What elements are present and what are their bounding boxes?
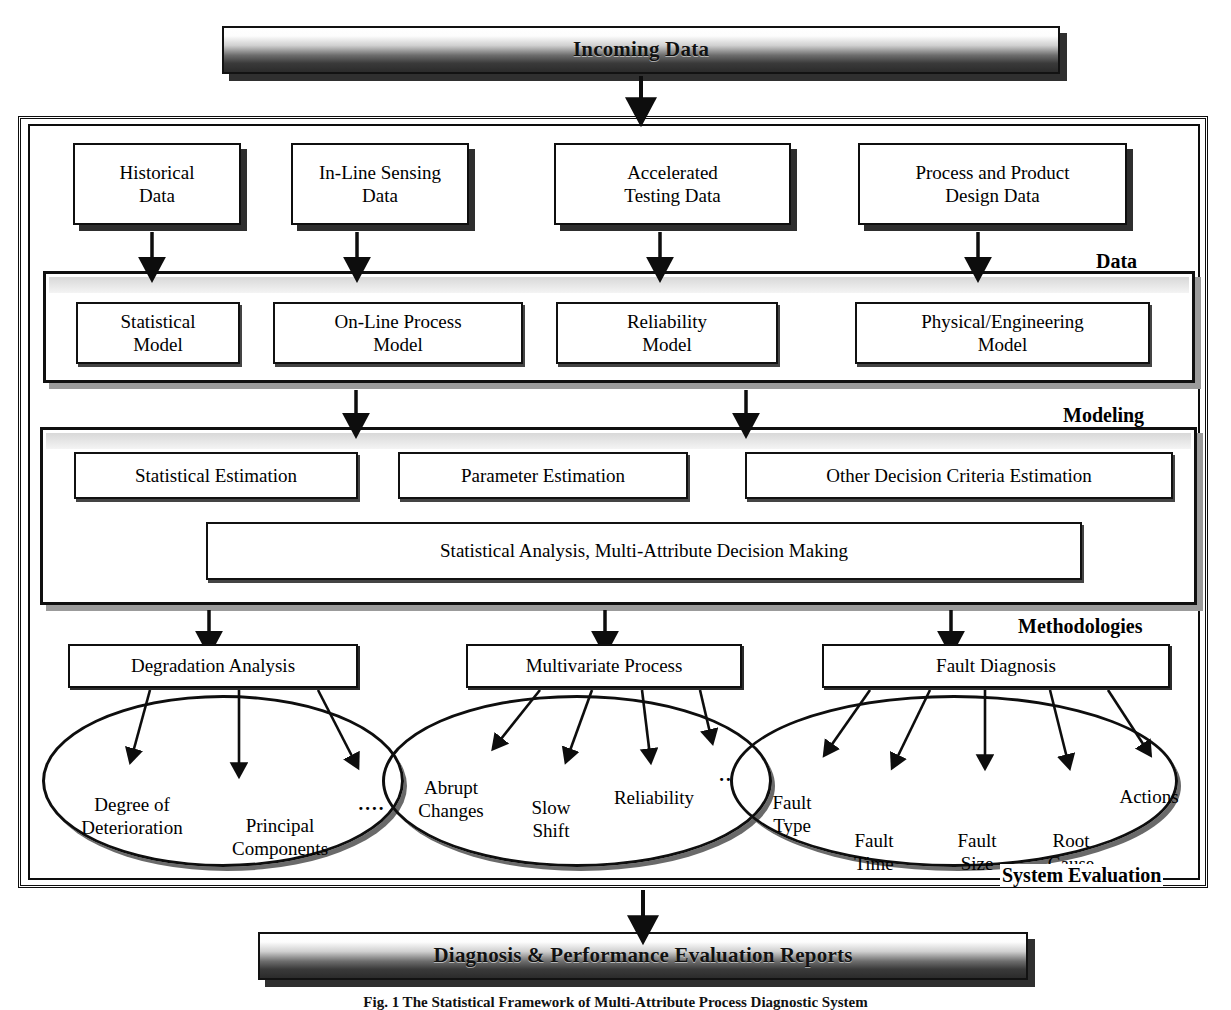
leaf-actions-label: Actions [1119,786,1178,807]
section-label-system-evaluation: System Evaluation [1000,864,1163,887]
section-label-system-evaluation-text: System Evaluation [1002,864,1161,886]
node-degradation-analysis[interactable]: Degradation Analysis [68,644,358,688]
leaf-principal-components-label: Principal Components [232,815,328,858]
leaf-degradation-ellipsis: .... [342,793,402,815]
leaf-slow-shift-label: Slow Shift [531,797,570,840]
section-label-modeling-text: Modeling [1063,404,1144,426]
section-label-data: Data [1096,250,1137,273]
node-parameter-estimation-label: Parameter Estimation [461,464,625,487]
node-physical-engineering-model-label: Physical/Engineering Model [921,310,1084,356]
section-label-methodologies-text: Methodologies [1018,615,1142,637]
diagnosis-reports-label: Diagnosis & Performance Evaluation Repor… [433,943,852,968]
leaf-reliability: Reliability [594,787,714,809]
section-label-methodologies: Methodologies [1018,615,1142,638]
node-statistical-analysis-label: Statistical Analysis, Multi-Attribute De… [440,539,848,562]
node-in-line-sensing-data[interactable]: In-Line Sensing Data [291,143,469,225]
node-in-line-sensing-data-label: In-Line Sensing Data [319,161,441,207]
section-label-data-text: Data [1096,250,1137,272]
node-degradation-analysis-label: Degradation Analysis [131,655,295,677]
leaf-abrupt-changes: Abrupt Changes [396,755,506,822]
node-fault-diagnosis-label: Fault Diagnosis [936,655,1056,677]
leaf-fault-type-label: Fault Type [772,792,811,835]
leaf-degree-of-deterioration-label: Degree of Deterioration [81,794,182,837]
incoming-data-label: Incoming Data [573,37,709,62]
node-on-line-process-model[interactable]: On-Line Process Model [273,302,523,364]
node-physical-engineering-model[interactable]: Physical/Engineering Model [855,302,1150,364]
node-process-design-data-label: Process and Product Design Data [915,161,1069,207]
leaf-fault-time: Fault Time [834,808,914,875]
leaf-degree-of-deterioration: Degree of Deterioration [52,772,212,839]
leaf-actions: Actions [1104,786,1194,808]
node-other-decision-criteria-estimation-label: Other Decision Criteria Estimation [826,464,1091,487]
node-historical-data[interactable]: Historical Data [73,143,241,225]
leaf-slow-shift: Slow Shift [511,775,591,842]
leaf-abrupt-changes-label: Abrupt Changes [418,777,483,820]
leaf-fault-size-label: Fault Size [957,830,996,873]
leaf-principal-components: Principal Components [205,793,355,860]
leaf-fault-time-label: Fault Time [854,830,893,873]
node-multivariate-process-label: Multivariate Process [526,655,683,677]
section-label-modeling: Modeling [1063,404,1144,427]
node-on-line-process-model-label: On-Line Process Model [334,310,461,356]
figure-caption-text: Fig. 1 The Statistical Framework of Mult… [363,994,867,1010]
node-statistical-model-label: Statistical Model [121,310,196,356]
leaf-multivariate-ellipsis-label: .. [719,764,733,785]
leaf-degradation-ellipsis-label: .... [359,793,386,814]
node-statistical-estimation[interactable]: Statistical Estimation [74,452,358,499]
node-other-decision-criteria-estimation[interactable]: Other Decision Criteria Estimation [745,452,1173,499]
node-process-and-product-design-data[interactable]: Process and Product Design Data [858,143,1127,225]
node-reliability-model-label: Reliability Model [627,310,707,356]
figure-caption: Fig. 1 The Statistical Framework of Mult… [0,994,1231,1010]
node-accelerated-testing-data[interactable]: Accelerated Testing Data [554,143,791,225]
incoming-data-banner: Incoming Data [222,26,1060,74]
node-statistical-model[interactable]: Statistical Model [76,302,240,364]
node-reliability-model[interactable]: Reliability Model [556,302,778,364]
diagnosis-reports-banner: Diagnosis & Performance Evaluation Repor… [258,932,1028,980]
node-historical-data-label: Historical Data [120,161,195,207]
node-statistical-analysis-decision-making[interactable]: Statistical Analysis, Multi-Attribute De… [206,522,1082,580]
node-multivariate-process[interactable]: Multivariate Process [466,644,742,688]
node-statistical-estimation-label: Statistical Estimation [135,464,297,487]
node-fault-diagnosis[interactable]: Fault Diagnosis [822,644,1170,688]
leaf-reliability-label: Reliability [614,787,694,808]
node-parameter-estimation[interactable]: Parameter Estimation [398,452,688,499]
leaf-multivariate-ellipsis: .. [706,764,746,786]
leaf-fault-type: Fault Type [752,770,832,837]
node-accelerated-testing-data-label: Accelerated Testing Data [624,161,720,207]
